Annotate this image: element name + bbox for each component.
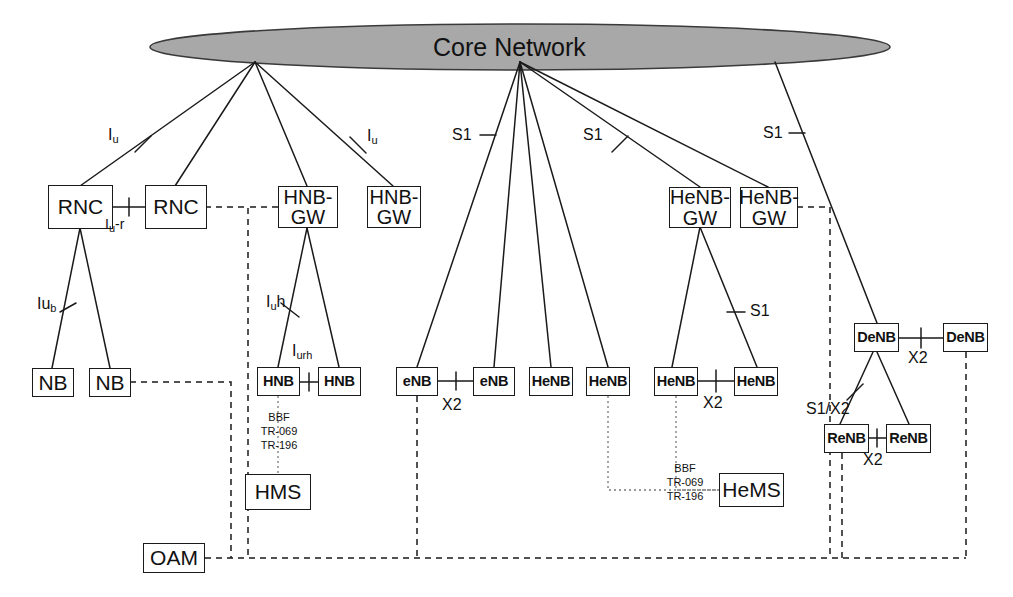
link-rnc1-nb2 [80, 228, 110, 368]
node-enb-1[interactable]: eNB [396, 367, 438, 396]
label-s1-d: S1 [750, 302, 770, 320]
node-hems[interactable]: HeMS [719, 473, 784, 507]
tick-iu-left [135, 136, 151, 152]
label-x2-enb: X2 [442, 396, 462, 414]
label-iub-sub: b [50, 302, 56, 314]
label-hms-protocol: BBF TR-069 TR-196 [249, 410, 309, 452]
label-iurh: Iurh [292, 342, 312, 361]
link-cn-henbgw1 [520, 62, 700, 187]
node-denb-1[interactable]: DeNB [854, 323, 899, 352]
label-iu-right: Iu [367, 127, 378, 146]
node-oam[interactable]: OAM [143, 543, 205, 573]
label-iu-right-sub: u [371, 134, 377, 146]
label-s1-a: S1 [452, 126, 472, 144]
tick-s1x2 [847, 384, 863, 400]
label-x2-henb: X2 [703, 394, 723, 412]
node-enb-2[interactable]: eNB [473, 367, 515, 396]
link-cn-hnbgw1 [255, 62, 307, 186]
link-cn-henbgw2 [520, 62, 768, 187]
label-iurh-sub: urh [296, 349, 312, 361]
node-hnb-gw-1[interactable]: HNB- GW [278, 186, 338, 228]
label-s1-b: S1 [583, 126, 603, 144]
oam-link-henbgw2 [797, 207, 830, 558]
node-henb-gw-2[interactable]: HeNB- GW [740, 187, 798, 228]
node-henb-1[interactable]: HeNB [529, 367, 573, 396]
node-henb-gw-2-label: HeNB- GW [739, 187, 799, 228]
label-iur: Iu-r [105, 216, 124, 234]
tick-iub [60, 303, 76, 312]
network-architecture-diagram: Core Network RNC RNC HNB- GW HNB- GW HeN… [0, 0, 1013, 597]
link-cn-enb2 [494, 62, 520, 367]
label-iub: Iub [37, 295, 56, 314]
link-cn-enb1 [417, 62, 520, 367]
label-s1-c: S1 [763, 124, 783, 142]
link-henbgw1-henb4 [700, 227, 757, 367]
link-cn-hnbgw2 [255, 62, 393, 186]
node-rnc-2[interactable]: RNC [145, 185, 207, 229]
node-renb-1[interactable]: ReNB [824, 424, 869, 453]
link-henbgw1-henb3 [672, 227, 700, 367]
node-renb-2[interactable]: ReNB [886, 424, 931, 453]
core-network-label: Core Network [433, 33, 586, 62]
node-nb-1[interactable]: NB [32, 368, 74, 397]
node-nb-2[interactable]: NB [89, 368, 131, 397]
node-hnb-1[interactable]: HNB [257, 367, 300, 396]
link-cn-henb2 [520, 62, 608, 367]
node-henb-gw-1-label: HeNB- GW [670, 187, 730, 228]
node-rnc-1[interactable]: RNC [48, 185, 113, 229]
label-iur-tail: -r [115, 216, 124, 232]
label-iu-left-sub: u [112, 133, 118, 145]
link-denb1-renb2 [877, 352, 909, 424]
oam-link-nb2 [130, 382, 231, 558]
node-hnb-2[interactable]: HNB [318, 367, 361, 396]
tick-iu-right [350, 137, 366, 153]
node-hnb-gw-2-label: HNB- GW [370, 187, 419, 228]
node-henb-gw-1[interactable]: HeNB- GW [669, 187, 731, 228]
node-hnb-gw-2[interactable]: HNB- GW [367, 186, 421, 228]
link-cn-rnc1 [80, 62, 255, 186]
node-henb-3[interactable]: HeNB [654, 367, 698, 396]
tick-s1-b [612, 136, 628, 152]
label-iub-base: Iu [37, 295, 50, 312]
label-hems-protocol: BBF TR-069 TR-196 [655, 461, 715, 503]
label-x2-denb: X2 [908, 349, 928, 367]
node-henb-2[interactable]: HeNB [586, 367, 630, 396]
node-hnb-gw-1-label: HNB- GW [284, 187, 333, 228]
label-x2-renb: X2 [863, 451, 883, 469]
link-cn-rnc2 [175, 62, 255, 186]
label-s1-x2: S1/X2 [806, 400, 850, 418]
node-henb-4[interactable]: HeNB [734, 367, 778, 396]
node-denb-2[interactable]: DeNB [943, 323, 988, 352]
link-cn-henb1 [520, 62, 551, 367]
diagram-connections-layer [0, 0, 1013, 597]
label-iuh: Iuh [266, 293, 285, 312]
label-iu-left: Iu [108, 126, 119, 145]
label-iuh-tail: h [277, 293, 286, 310]
node-hms[interactable]: HMS [245, 474, 311, 510]
